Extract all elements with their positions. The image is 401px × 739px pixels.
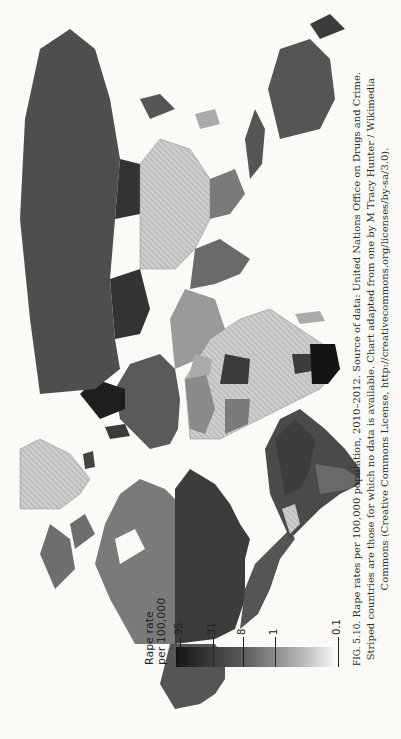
legend-tick	[180, 637, 181, 667]
figure-caption: FIG. 5.10. Rape rates per 100,000 popula…	[350, 59, 392, 679]
kazakhstan	[110, 269, 150, 339]
sudan-region	[220, 354, 250, 384]
iceland	[83, 451, 95, 469]
legend-tick	[213, 637, 214, 667]
caption-text: Rape rates per 100,000 population, 2010–…	[351, 72, 390, 660]
legend-tick-label: 8	[236, 629, 247, 635]
figure-label: FIG. 5.10.	[352, 621, 362, 666]
india	[190, 239, 250, 289]
legend-tick-label: 1	[268, 629, 279, 635]
legend-tick-label: 31	[206, 622, 217, 635]
russia	[20, 29, 120, 394]
botswana	[292, 354, 312, 374]
legend-tick	[275, 637, 276, 667]
australia	[268, 39, 335, 139]
legend-tick	[338, 637, 339, 667]
legend-tick-label: 0.1	[331, 619, 342, 635]
legend-tick-label: 95	[173, 622, 184, 635]
legend-tick	[243, 637, 244, 667]
south-africa	[310, 344, 340, 384]
new-zealand	[310, 14, 345, 39]
greenland	[20, 439, 90, 509]
legend-title-line2: per 100,000	[156, 598, 168, 665]
legend-gradient-bar	[176, 647, 334, 667]
legend-title: Rape rate per 100,000	[144, 598, 168, 665]
rotated-figure: Rape rate per 100,000 95 31 8 1 0.1 FIG.…	[0, 0, 401, 739]
madagascar	[295, 311, 325, 324]
japan	[140, 94, 175, 119]
united-states	[175, 469, 250, 644]
uk	[105, 424, 130, 439]
